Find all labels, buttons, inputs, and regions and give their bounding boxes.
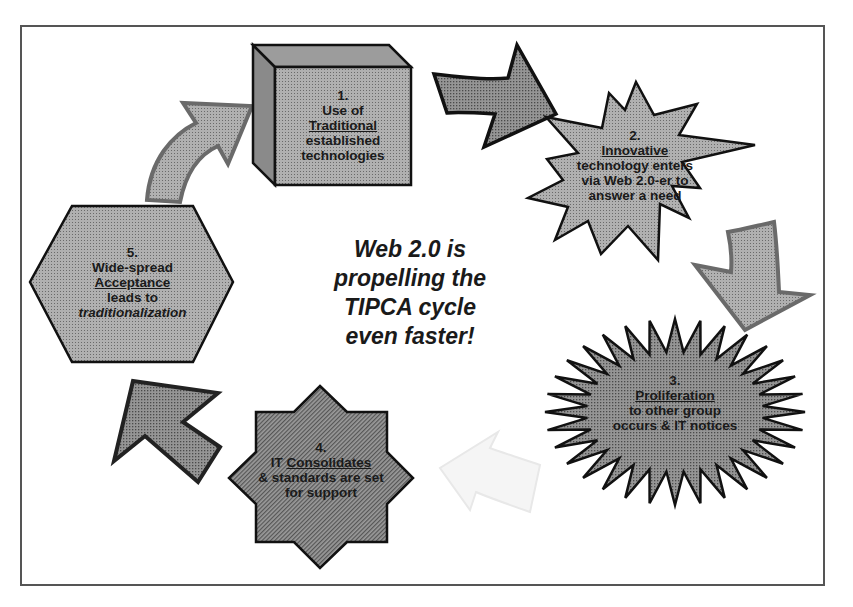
- center-line-3: TIPCA cycle: [295, 293, 525, 322]
- step-4-number: 4.: [232, 440, 410, 455]
- step-4-prefix: IT: [271, 455, 287, 470]
- step-1-line-1: Use of: [275, 103, 411, 118]
- step-2-label: 2. Innovative technology enters via Web …: [560, 128, 710, 203]
- step-3-line-3: occurs & IT notices: [585, 418, 765, 433]
- center-line-1: Web 2.0 is: [295, 235, 525, 264]
- step-5-line-4: traditionalization: [55, 305, 210, 320]
- arrow-4-to-5-icon: [114, 381, 220, 482]
- step-1-line-3: established: [275, 133, 411, 148]
- step-2-keyword: Innovative: [560, 143, 710, 158]
- step-3-number: 3.: [585, 373, 765, 388]
- step-5-keyword: Acceptance: [55, 275, 210, 290]
- step-4-keyword: Consolidates: [286, 455, 371, 470]
- step-3-line-2: to other group: [585, 403, 765, 418]
- step-5-line-1: Wide-spread: [55, 260, 210, 275]
- step-5-label: 5. Wide-spread Acceptance leads to tradi…: [55, 245, 210, 320]
- step-1-number: 1.: [275, 88, 411, 103]
- step-2-line-3: via Web 2.0-er to: [560, 173, 710, 188]
- step-4-label: 4. IT Consolidates & standards are set f…: [232, 440, 410, 500]
- step-5-line-3: leads to: [55, 290, 210, 305]
- arrow-5-to-1-icon: [147, 103, 252, 202]
- step-1-line-4: technologies: [275, 148, 411, 163]
- step-2-line-4: answer a need: [560, 188, 710, 203]
- step-1-keyword: Traditional: [275, 118, 411, 133]
- step-5-number: 5.: [55, 245, 210, 260]
- step-4-line-2: & standards are set: [232, 470, 410, 485]
- step-4-line-1: IT Consolidates: [232, 455, 410, 470]
- arrow-1-to-2-icon: [434, 45, 556, 147]
- arrow-2-to-3-icon: [695, 222, 810, 330]
- center-line-4: even faster!: [295, 322, 525, 351]
- arrow-3-to-4-icon: [440, 432, 540, 512]
- step-4-line-3: for support: [232, 485, 410, 500]
- step-3-label: 3. Proliferation to other group occurs &…: [585, 373, 765, 433]
- step-3-keyword: Proliferation: [585, 388, 765, 403]
- step-2-line-2: technology enters: [560, 158, 710, 173]
- step-1-label: 1. Use of Traditional established techno…: [275, 88, 411, 163]
- step-2-number: 2.: [560, 128, 710, 143]
- center-message: Web 2.0 is propelling the TIPCA cycle ev…: [295, 235, 525, 351]
- center-line-2: propelling the: [295, 264, 525, 293]
